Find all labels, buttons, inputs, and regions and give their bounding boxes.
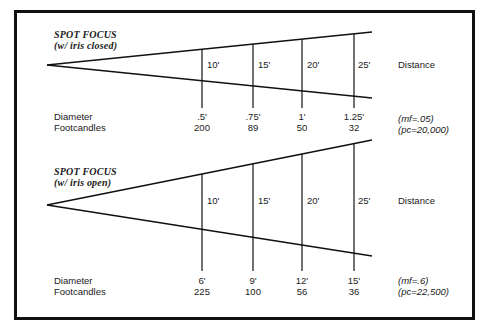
diameter-label: Diameter [54, 111, 93, 122]
distance-label: Distance [398, 195, 435, 206]
footcandles-label: Footcandles [54, 122, 106, 133]
footcandles-label: Footcandles [54, 286, 106, 297]
diagram-title: SPOT FOCUS [54, 29, 117, 40]
footcandles-value: 89 [233, 122, 273, 133]
distance-value: 25' [358, 195, 370, 206]
distance-label: Distance [398, 59, 435, 70]
pc-value: (pc=22,500) [398, 286, 449, 297]
diagram-subtitle: (w/ iris open) [54, 177, 111, 188]
pc-value: (pc=20,000) [398, 124, 449, 135]
diameter-value: 12' [282, 275, 322, 286]
distance-value: 10' [207, 195, 219, 206]
diameter-value: .5' [182, 111, 222, 122]
footcandles-value: 50 [282, 122, 322, 133]
diameter-value: 1' [282, 111, 322, 122]
diameter-value: 1.25' [334, 111, 374, 122]
distance-value: 10' [207, 59, 219, 70]
footcandles-value: 56 [282, 286, 322, 297]
distance-value: 25' [358, 59, 370, 70]
footcandles-value: 36 [334, 286, 374, 297]
mf-value: (mf=.6) [398, 275, 428, 286]
footcandles-value: 100 [233, 286, 273, 297]
footcandles-value: 32 [334, 122, 374, 133]
mf-value: (mf=.05) [398, 113, 434, 124]
diagram-title: SPOT FOCUS [54, 166, 117, 177]
diameter-label: Diameter [54, 275, 93, 286]
diameter-value: 15' [334, 275, 374, 286]
distance-value: 20' [307, 59, 319, 70]
footcandles-value: 200 [182, 122, 222, 133]
diameter-value: 9' [233, 275, 273, 286]
diameter-value: 6' [182, 275, 222, 286]
distance-value: 15' [258, 195, 270, 206]
distance-value: 15' [258, 59, 270, 70]
distance-value: 20' [307, 195, 319, 206]
footcandles-value: 225 [182, 286, 222, 297]
diagram-subtitle: (w/ iris closed) [54, 40, 117, 51]
diameter-value: .75' [233, 111, 273, 122]
